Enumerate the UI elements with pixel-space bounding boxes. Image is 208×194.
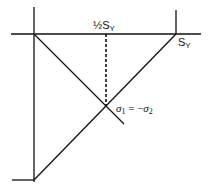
- yield-diagram: ½SY SY σ1 = −σ2: [0, 0, 208, 194]
- diagonal-down-right: [34, 34, 124, 124]
- sy-label: SY: [178, 36, 191, 50]
- half-sy-label: ½SY: [93, 19, 116, 33]
- sigma-equation-label: σ1 = −σ2: [116, 102, 153, 116]
